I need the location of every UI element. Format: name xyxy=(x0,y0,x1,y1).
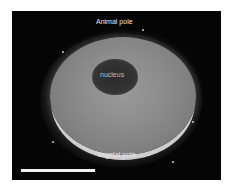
speck xyxy=(142,29,144,31)
animal-pole-label: Animal pole xyxy=(96,18,133,26)
micrograph-frame: Animal pole nucleus Vegetal pole xyxy=(12,11,221,180)
speck xyxy=(172,161,174,163)
speck xyxy=(62,51,64,53)
speck xyxy=(192,121,194,123)
vegetal-pole-label: Vegetal pole xyxy=(97,151,136,159)
scale-bar xyxy=(21,169,95,172)
oocyte-cell xyxy=(50,37,196,155)
nucleus-label: nucleus xyxy=(100,71,124,79)
speck xyxy=(52,141,54,143)
